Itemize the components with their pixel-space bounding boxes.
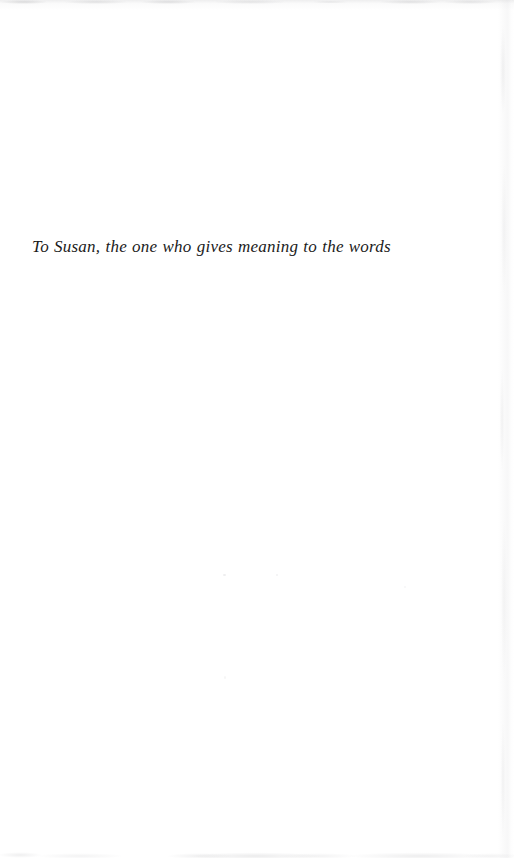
scan-artifact-top-speckle <box>0 0 514 7</box>
scan-artifact-bottom-edge <box>0 844 514 858</box>
scan-artifact-speck <box>276 574 278 576</box>
scan-artifact-right-edge <box>498 0 514 858</box>
dedication-text: To Susan, the one who gives meaning to t… <box>32 236 452 258</box>
scan-artifact-speck <box>223 574 226 576</box>
dedication-page: To Susan, the one who gives meaning to t… <box>0 0 514 858</box>
scan-artifact-right-mottle <box>494 0 514 858</box>
scan-artifact-speck <box>404 586 406 588</box>
scan-artifact-speck <box>224 676 226 679</box>
scan-artifact-top-edge <box>0 0 514 10</box>
